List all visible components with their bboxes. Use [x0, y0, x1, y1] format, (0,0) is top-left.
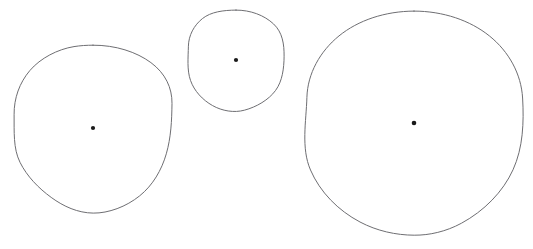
large-circle-center-dot [412, 121, 417, 126]
small-circle-center-dot [234, 58, 238, 62]
medium-circle-center-dot [91, 126, 95, 130]
figure-canvas [0, 0, 533, 249]
